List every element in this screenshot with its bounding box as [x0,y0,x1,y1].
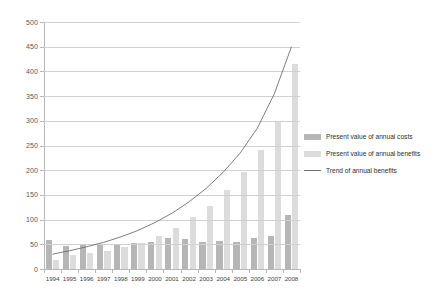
y-axis-tick-label: 350 [12,93,38,100]
x-axis-tick-mark [129,269,130,273]
y-axis-tick-label: 0 [12,266,38,273]
x-axis-tick-label: 2004 [215,275,232,283]
x-axis-tick-mark [249,269,250,273]
x-axis-tick-label: 2002 [181,275,198,283]
y-axis-tick-label: 500 [12,19,38,26]
y-axis-tick-label: 200 [12,167,38,174]
x-axis-tick-mark [44,269,45,273]
legend-label: Present value of annual costs [326,133,413,141]
x-axis-tick-label: 1995 [61,275,78,283]
legend-swatch-costs [304,134,321,140]
x-axis-tick-label: 2007 [266,275,283,283]
x-axis-tick-mark [215,269,216,273]
y-axis-tick-label: 300 [12,117,38,124]
legend-line-marker [304,170,321,171]
x-axis-tick-label: 1994 [44,275,61,283]
legend-label: Trend of annual benefits [326,167,397,175]
legend-item: Present value of annual costs [304,131,440,142]
x-axis-tick-label: 1998 [112,275,129,283]
x-axis-tick-label: 2008 [283,275,300,283]
x-axis-tick-label: 1996 [78,275,95,283]
x-axis-tick-mark [198,269,199,273]
chart-legend: Present value of annual costsPresent val… [304,131,440,182]
trend-line-series [44,22,301,270]
x-axis-tick-mark [181,269,182,273]
y-axis-tick-label: 50 [12,241,38,248]
x-axis-tick-mark [163,269,164,273]
legend-item: Present value of annual benefits [304,148,440,159]
x-axis-tick-mark [146,269,147,273]
x-axis-tick-mark [61,269,62,273]
x-axis-tick-mark [95,269,96,273]
trend-of-annual-benefits-path [53,47,292,254]
x-axis-tick-label: 2001 [163,275,180,283]
x-axis-tick-label: 2005 [232,275,249,283]
y-axis-tick-label: 100 [12,216,38,223]
x-axis-tick-label: 2003 [198,275,215,283]
legend-swatch-benefits [304,151,321,157]
x-axis-tick-label: 1997 [95,275,112,283]
y-axis-tick-label: 150 [12,191,38,198]
y-axis-tick-label: 450 [12,43,38,50]
x-axis-tick-mark [283,269,284,273]
x-axis-tick-mark [78,269,79,273]
x-axis-tick-mark [112,269,113,273]
x-axis-tick-mark [300,269,301,273]
y-axis-tick-label: 400 [12,68,38,75]
x-axis-tick-label: 2006 [249,275,266,283]
x-axis-tick-mark [232,269,233,273]
y-axis-tick-label: 250 [12,142,38,149]
legend-item: Trend of annual benefits [304,165,440,176]
x-axis-tick-label: 1999 [129,275,146,283]
chart-container: 500450400350300250200150100500 199419951… [0,0,443,305]
legend-label: Present value of annual benefits [326,150,420,158]
x-axis-tick-label: 2000 [146,275,163,283]
x-axis-tick-mark [266,269,267,273]
